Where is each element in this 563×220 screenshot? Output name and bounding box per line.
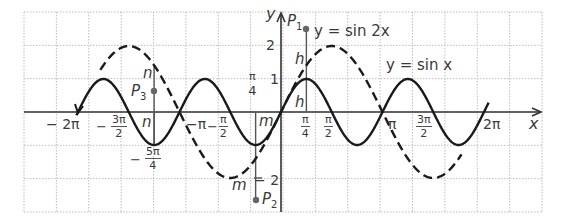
point-subscript: 1 bbox=[296, 21, 302, 32]
frac-num: 5π bbox=[145, 146, 161, 159]
x-tick-pi-4: π 4 bbox=[301, 114, 310, 139]
frac-den: 2 bbox=[115, 127, 122, 139]
x-tick-neg-3pi-2: 3π 2 bbox=[111, 114, 127, 139]
segment-label-h-upper: h bbox=[295, 52, 305, 67]
frac-den: 4 bbox=[149, 159, 156, 171]
curve-label-sin2x: y = sin 2x bbox=[314, 24, 390, 39]
point-p2 bbox=[253, 197, 259, 203]
frac-num: π bbox=[219, 114, 228, 127]
frac-num: π bbox=[248, 71, 257, 83]
x-tick-2pi: 2π bbox=[483, 117, 500, 131]
sine-graph bbox=[0, 0, 563, 220]
frac-num: π bbox=[324, 114, 333, 127]
y-tick-1: 1 bbox=[270, 72, 279, 86]
y-tick-neg-2: − 2 bbox=[254, 173, 279, 187]
frac-den: 4 bbox=[302, 127, 309, 139]
point-p1 bbox=[303, 26, 309, 32]
point-label-p3: P3 bbox=[131, 84, 146, 102]
x-tick-3pi-2: 3π 2 bbox=[416, 114, 432, 139]
points bbox=[151, 26, 309, 203]
frac-num: 3π bbox=[416, 114, 432, 127]
tick-pi-over-4-upper: π 4 bbox=[248, 71, 257, 97]
segment-label-m-upper: m bbox=[259, 114, 274, 129]
segment-label-m-lower: m bbox=[232, 178, 247, 193]
x-tick-neg-pi: −π bbox=[186, 117, 206, 131]
x-tick-pi-2: π 2 bbox=[324, 114, 333, 139]
point-subscript: 3 bbox=[140, 91, 146, 102]
segment-label-n-lower: n bbox=[142, 115, 152, 130]
point-subscript: 2 bbox=[271, 199, 277, 210]
point-letter: P bbox=[262, 190, 271, 208]
frac-num: 3π bbox=[111, 114, 127, 127]
segment-label-n-upper: n bbox=[143, 66, 153, 81]
x-tick-neg-pi-2: π 2 bbox=[219, 114, 228, 139]
point-label-p1: P1 bbox=[287, 14, 302, 32]
y-axis-label: y bbox=[266, 6, 275, 22]
x-tick-pi: π bbox=[388, 117, 396, 131]
x-axis-label: x bbox=[529, 116, 538, 132]
frac-den: 2 bbox=[220, 127, 227, 139]
y-tick-2: 2 bbox=[266, 38, 275, 52]
x-tick-neg-2pi: − 2π bbox=[46, 117, 80, 131]
x-tick-neg-pi-2-sign: − bbox=[207, 119, 218, 134]
x-tick-neg-5pi-4-sign: − bbox=[130, 152, 141, 167]
point-p3 bbox=[151, 88, 157, 94]
point-letter: P bbox=[131, 82, 140, 100]
frac-num: π bbox=[301, 114, 310, 127]
segment-label-h-lower: h bbox=[295, 95, 305, 110]
point-letter: P bbox=[287, 12, 296, 30]
frac-den: 2 bbox=[420, 127, 427, 139]
x-tick-neg-5pi-4: 5π 4 bbox=[145, 146, 161, 171]
x-tick-neg-3pi-2-sign: − bbox=[96, 119, 107, 134]
curve-label-sinx: y = sin x bbox=[386, 58, 452, 73]
frac-den: 2 bbox=[325, 127, 332, 139]
frac-den: 4 bbox=[248, 83, 256, 97]
point-label-p2: P2 bbox=[262, 192, 277, 210]
